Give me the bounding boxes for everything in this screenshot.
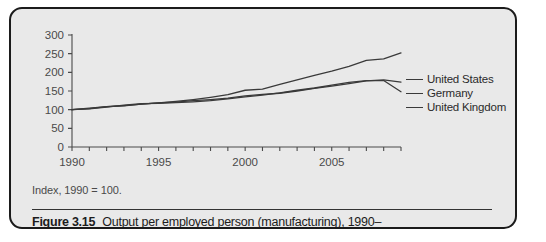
index-note: Index, 1990 = 100.	[32, 184, 122, 196]
legend-item-germany: Germany	[406, 86, 516, 100]
legend-item-united-states: United States	[406, 72, 516, 86]
figure-number-label: Figure 3.15	[32, 215, 95, 229]
x-axis: 1990199520002005	[59, 147, 401, 168]
chart-series-lines	[72, 53, 401, 110]
svg-text:2000: 2000	[232, 156, 258, 168]
svg-text:300: 300	[45, 29, 64, 41]
svg-text:200: 200	[45, 66, 64, 78]
y-axis: 050100150200250300	[45, 29, 72, 153]
legend-label: Germany	[427, 87, 473, 99]
svg-text:100: 100	[45, 104, 64, 116]
figure-caption-text: Output per employed person (manufacturin…	[102, 215, 381, 229]
svg-text:250: 250	[45, 48, 64, 60]
legend-line-swatch-icon	[406, 107, 423, 108]
svg-text:50: 50	[51, 122, 64, 134]
chart-plot-area: 050100150200250300 1990199520002005	[11, 9, 411, 174]
line-chart-svg: 050100150200250300 1990199520002005	[11, 9, 411, 174]
chart-legend: United States Germany United Kingdom	[406, 72, 516, 114]
figure-card: 050100150200250300 1990199520002005 Unit…	[9, 7, 517, 229]
legend-item-united-kingdom: United Kingdom	[406, 100, 516, 114]
figure-caption: Figure 3.15Output per employed person (m…	[32, 215, 381, 229]
caption-divider	[32, 209, 492, 210]
legend-label: United Kingdom	[427, 101, 506, 113]
legend-line-swatch-icon	[406, 79, 423, 80]
svg-text:1990: 1990	[59, 156, 85, 168]
legend-label: United States	[427, 73, 493, 85]
legend-line-swatch-icon	[406, 93, 423, 94]
svg-text:2005: 2005	[319, 156, 345, 168]
svg-text:150: 150	[45, 85, 64, 97]
svg-text:1995: 1995	[146, 156, 172, 168]
svg-text:0: 0	[58, 141, 64, 153]
